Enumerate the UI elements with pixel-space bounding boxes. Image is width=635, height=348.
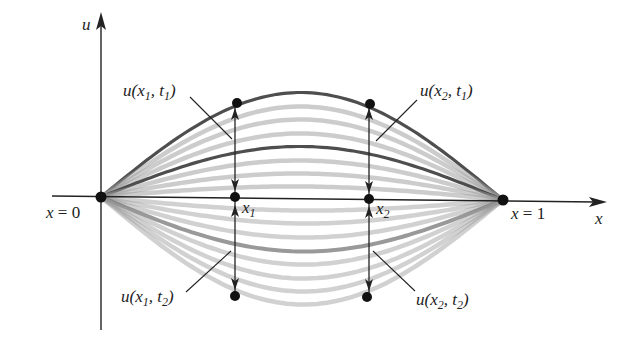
left-end-label: x = 0 (45, 203, 80, 222)
u-axis (96, 12, 106, 330)
x1-axis-point (230, 192, 240, 202)
x2-label: x2 (375, 199, 390, 221)
u-x1-t2-point (230, 291, 240, 301)
left-end-point (96, 192, 107, 203)
x-axis-label: x (594, 209, 603, 228)
annotation-u-x1-t2: u(x1, t2) (121, 287, 174, 309)
string-vibration-diagram: u x x = 0 x = 1 x1 x2 u(x1, t1) u(x2, t1… (0, 0, 635, 348)
u-x1-t1-point (232, 98, 242, 108)
annotation-u-x2-t2: u(x2, t2) (416, 290, 469, 312)
x2-axis-point (364, 194, 374, 204)
right-end-label: x = 1 (510, 204, 545, 223)
u-x2-t2-point (362, 292, 372, 302)
right-end-point (498, 195, 509, 206)
annotation-u-x1-t1: u(x1, t1) (123, 81, 176, 103)
x1-label: x1 (241, 198, 256, 220)
annotation-u-x2-t1: u(x2, t1) (420, 81, 473, 103)
u-axis-label: u (82, 15, 91, 34)
u-x2-t1-point (365, 99, 375, 109)
